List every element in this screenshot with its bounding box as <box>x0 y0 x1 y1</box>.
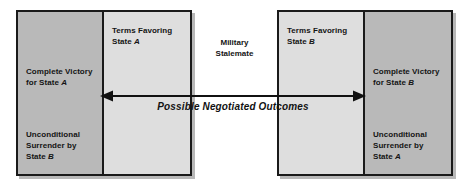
cv-b-line2: for State <box>373 78 408 87</box>
cv-a-state: A <box>61 78 67 87</box>
tf-b-line2: State <box>287 37 309 46</box>
tf-b-state: B <box>309 37 315 46</box>
terms-favoring-b-text: Terms Favoring State B <box>287 26 358 48</box>
terms-favoring-a-text: Terms Favoring State A <box>112 26 185 48</box>
cv-b-state: B <box>408 78 414 87</box>
panel-complete-victory-state-a: Complete Victory for State A Uncondition… <box>18 12 104 174</box>
cv-a-line1: Complete Victory <box>26 67 92 76</box>
us-a-state: A <box>395 152 401 161</box>
panel-complete-victory-state-b: Complete Victory for State B Uncondition… <box>365 12 451 174</box>
negotiated-outcomes-label: Possible Negotiated Outcomes <box>100 101 366 112</box>
us-b-line2: Surrender by <box>26 141 76 150</box>
tf-b-line1: Terms Favoring <box>287 26 347 35</box>
complete-victory-b-text: Complete Victory for State B <box>373 67 446 89</box>
stalemate-line1: Military <box>220 38 248 47</box>
stalemate-line2: Stalemate <box>216 49 254 58</box>
us-b-line1: Unconditional <box>26 130 80 139</box>
us-a-line1: Unconditional <box>373 130 427 139</box>
us-a-line3: State <box>373 152 395 161</box>
unconditional-surrender-b-text: Unconditional Surrender by State B <box>26 130 97 162</box>
tf-a-line1: Terms Favoring <box>112 26 172 35</box>
cv-a-line2: for State <box>26 78 61 87</box>
bargaining-range-diagram: Complete Victory for State A Uncondition… <box>0 0 466 191</box>
unconditional-surrender-a-text: Unconditional Surrender by State A <box>373 130 446 162</box>
us-b-state: B <box>48 152 54 161</box>
tf-a-line2: State <box>112 37 134 46</box>
tf-a-state: A <box>134 37 140 46</box>
military-stalemate-label: Military Stalemate <box>192 38 277 60</box>
us-b-line3: State <box>26 152 48 161</box>
complete-victory-a-text: Complete Victory for State A <box>26 67 97 89</box>
us-a-line2: Surrender by <box>373 141 423 150</box>
cv-b-line1: Complete Victory <box>373 67 439 76</box>
